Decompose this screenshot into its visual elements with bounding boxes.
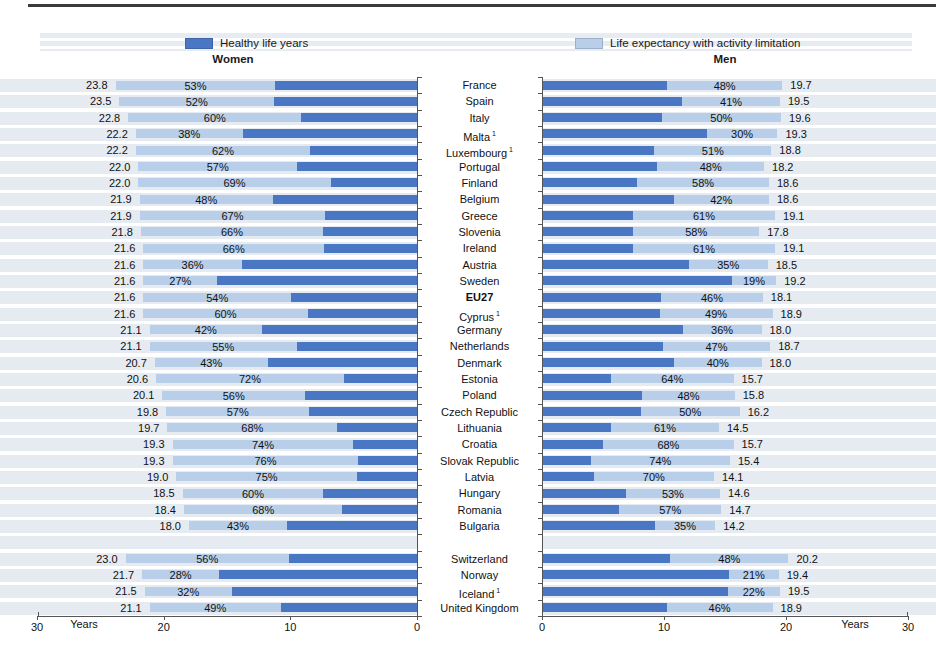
women-limitation-pct-label: 38% bbox=[136, 126, 243, 142]
panel-title-men: Men bbox=[665, 53, 785, 65]
men-limitation-pct-label: 61% bbox=[633, 208, 775, 224]
legend-swatch-healthy-icon bbox=[185, 38, 213, 49]
men-healthy-years-bar bbox=[542, 587, 728, 596]
men-limitation-pct-label: 47% bbox=[663, 339, 770, 355]
men-life-expectancy-bar: 61% bbox=[542, 211, 775, 220]
men-life-expectancy-bar: 46% bbox=[542, 603, 773, 612]
women-healthy-years-bar bbox=[242, 260, 417, 269]
women-life-expectancy-bar: 38% bbox=[136, 129, 417, 138]
axis-tick-label: 0 bbox=[397, 621, 437, 633]
men-life-expectancy-bar: 19% bbox=[542, 276, 776, 285]
men-healthy-years-bar bbox=[542, 342, 663, 351]
women-limitation-pct-label: 48% bbox=[140, 192, 273, 208]
women-life-expectancy-bar: 66% bbox=[141, 227, 417, 236]
page-top-rule bbox=[28, 4, 936, 7]
women-limitation-pct-label: 57% bbox=[166, 404, 309, 420]
country-label-germany: Germany bbox=[417, 322, 542, 338]
men-life-expectancy-bar: 58% bbox=[542, 178, 769, 187]
chart-row-france: 53%23.8France48%19.7 bbox=[0, 77, 936, 93]
axis-tick-label: 20 bbox=[144, 621, 184, 633]
women-life-expectancy-value: 21.5 bbox=[0, 583, 137, 599]
women-healthy-years-bar bbox=[309, 407, 417, 416]
country-label-finland: Finland bbox=[417, 175, 542, 191]
men-limitation-pct-label: 48% bbox=[642, 388, 735, 404]
country-label-hungary: Hungary bbox=[417, 485, 542, 501]
women-life-expectancy-bar: 32% bbox=[145, 587, 417, 596]
chart-row-slovenia: 66%21.8Slovenia58%17.8 bbox=[0, 224, 936, 240]
women-life-expectancy-bar: 52% bbox=[119, 97, 417, 106]
men-life-expectancy-value: 15.8 bbox=[743, 387, 803, 403]
women-limitation-pct-label: 53% bbox=[116, 78, 276, 94]
country-label-belgium: Belgium bbox=[417, 191, 542, 207]
women-limitation-pct-label: 36% bbox=[143, 257, 241, 273]
axis-tick-label: 10 bbox=[644, 621, 684, 633]
women-healthy-years-bar bbox=[353, 440, 417, 449]
axis-tick bbox=[164, 616, 165, 620]
axis-tick bbox=[908, 616, 909, 620]
men-limitation-pct-label: 70% bbox=[594, 469, 714, 485]
men-life-expectancy-bar: 61% bbox=[542, 244, 775, 253]
chart-row-finland: 69%22.0Finland58%18.6 bbox=[0, 175, 936, 191]
footnote-marker: 1 bbox=[490, 130, 496, 137]
women-healthy-years-bar bbox=[308, 309, 417, 318]
chart-row-switzerland: 56%23.0Switzerland48%20.2 bbox=[0, 551, 936, 567]
men-life-expectancy-value: 14.7 bbox=[729, 502, 789, 518]
axis-unit-label-women: Years bbox=[59, 618, 109, 630]
men-life-expectancy-value: 19.5 bbox=[788, 93, 848, 109]
women-life-expectancy-value: 19.3 bbox=[0, 453, 165, 469]
axis-tick bbox=[664, 616, 665, 620]
country-label-slovenia: Slovenia bbox=[417, 224, 542, 240]
men-healthy-years-bar bbox=[542, 489, 626, 498]
men-life-expectancy-bar: 49% bbox=[542, 309, 773, 318]
women-life-expectancy-bar: 68% bbox=[167, 423, 417, 432]
men-life-expectancy-bar: 50% bbox=[542, 407, 740, 416]
men-limitation-pct-label: 48% bbox=[667, 78, 782, 94]
row-stripe-left bbox=[0, 536, 417, 549]
scanned-chart-page: Healthy life years Life expectancy with … bbox=[0, 0, 936, 672]
women-life-expectancy-bar: 67% bbox=[140, 211, 417, 220]
men-life-expectancy-bar: 58% bbox=[542, 227, 759, 236]
women-limitation-pct-label: 69% bbox=[138, 175, 330, 191]
men-life-expectancy-bar: 70% bbox=[542, 472, 714, 481]
country-label-sweden: Sweden bbox=[417, 273, 542, 289]
chart-row-czech-republic: 57%19.8Czech Republic50%16.2 bbox=[0, 404, 936, 420]
chart-row-croatia: 74%19.3Croatia68%15.7 bbox=[0, 436, 936, 452]
men-limitation-pct-label: 42% bbox=[674, 192, 769, 208]
women-limitation-pct-label: 56% bbox=[126, 551, 289, 567]
footnote-marker: 1 bbox=[494, 310, 500, 317]
women-life-expectancy-value: 21.1 bbox=[0, 322, 142, 338]
women-life-expectancy-value: 19.7 bbox=[0, 420, 159, 436]
country-label-eu27: EU27 bbox=[417, 289, 542, 305]
men-healthy-years-bar bbox=[542, 603, 667, 612]
men-life-expectancy-bar: 74% bbox=[542, 456, 730, 465]
women-limitation-pct-label: 43% bbox=[155, 355, 268, 371]
men-limitation-pct-label: 74% bbox=[591, 453, 730, 469]
chart-row-portugal: 57%22.0Portugal48%18.2 bbox=[0, 159, 936, 175]
men-healthy-years-bar bbox=[542, 456, 591, 465]
men-life-expectancy-value: 20.2 bbox=[796, 551, 856, 567]
women-life-expectancy-value: 20.1 bbox=[0, 387, 154, 403]
women-life-expectancy-value: 23.5 bbox=[0, 93, 111, 109]
chart-row-estonia: 72%20.6Estonia64%15.7 bbox=[0, 371, 936, 387]
men-healthy-years-bar bbox=[542, 211, 633, 220]
women-life-expectancy-bar: 49% bbox=[150, 603, 417, 612]
women-limitation-pct-label: 28% bbox=[142, 567, 219, 583]
women-healthy-years-bar bbox=[243, 129, 417, 138]
women-healthy-years-bar bbox=[305, 391, 417, 400]
men-life-expectancy-value: 19.4 bbox=[787, 567, 847, 583]
women-life-expectancy-bar: 74% bbox=[173, 440, 417, 449]
women-healthy-years-bar bbox=[281, 603, 417, 612]
men-life-expectancy-bar: 48% bbox=[542, 391, 735, 400]
women-life-expectancy-value: 22.0 bbox=[0, 159, 130, 175]
men-life-expectancy-bar: 61% bbox=[542, 423, 719, 432]
men-healthy-years-bar bbox=[542, 293, 661, 302]
women-healthy-years-bar bbox=[287, 521, 417, 530]
men-life-expectancy-value: 14.1 bbox=[722, 469, 782, 485]
men-life-expectancy-value: 15.4 bbox=[738, 453, 798, 469]
axis-tick-label: 30 bbox=[888, 621, 928, 633]
country-label-switzerland: Switzerland bbox=[417, 551, 542, 567]
women-limitation-pct-label: 76% bbox=[173, 453, 359, 469]
women-limitation-pct-label: 67% bbox=[140, 208, 326, 224]
chart-row-united-kingdom: 49%21.1United Kingdom46%18.9 bbox=[0, 600, 936, 616]
women-axis-ticks bbox=[418, 77, 422, 617]
